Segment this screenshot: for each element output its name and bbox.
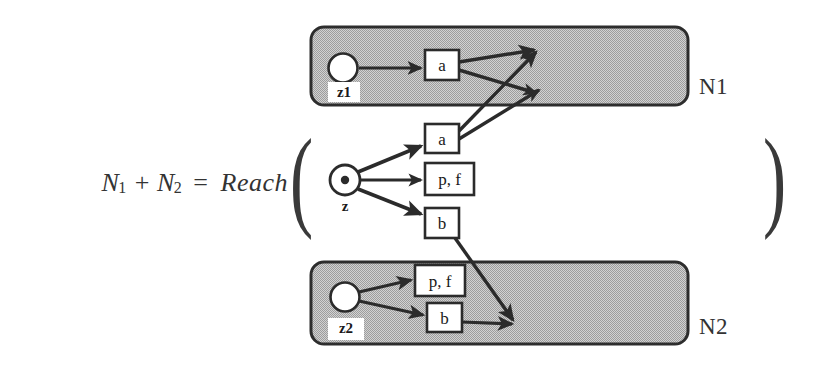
node-label-z1: z1 bbox=[328, 84, 360, 101]
equation: N1 + N2 = Reach bbox=[38, 158, 288, 208]
box-label-n2-b: b bbox=[427, 310, 462, 327]
node-z1-circle bbox=[329, 54, 358, 83]
equation-term-n1-sub: 1 bbox=[118, 179, 127, 197]
equation-term-n1: N bbox=[102, 168, 120, 198]
equation-plus: + bbox=[135, 168, 150, 198]
box-label-n1-a: a bbox=[425, 57, 459, 74]
box-label-n2-pf: p, f bbox=[415, 273, 465, 290]
edge-z-to-a bbox=[358, 146, 421, 172]
paren-open: ( bbox=[290, 122, 313, 234]
region-label-n1: N1 bbox=[699, 74, 728, 100]
paren-close: ) bbox=[763, 122, 786, 234]
edge-z-to-b bbox=[358, 189, 421, 214]
edge-n2-b-to-join bbox=[462, 322, 512, 324]
box-label-root-pf: p, f bbox=[425, 171, 474, 188]
equation-equals: = bbox=[193, 168, 208, 198]
equation-term-n2-sub: 2 bbox=[174, 179, 183, 197]
node-label-z2: z2 bbox=[328, 320, 364, 337]
region-n1-frame bbox=[311, 27, 688, 105]
node-z-dot bbox=[341, 176, 349, 184]
box-label-root-a: a bbox=[425, 131, 459, 148]
node-label-z: z bbox=[329, 198, 361, 215]
figure-canvas: N1 + N2 = Reach ( ) N1 N2 z1 z z2 a a p,… bbox=[0, 0, 821, 365]
region-n1 bbox=[311, 27, 688, 105]
node-z2-circle bbox=[331, 283, 360, 312]
equation-function-name: Reach bbox=[221, 168, 288, 198]
equation-term-n2: N bbox=[157, 168, 175, 198]
region-label-n2: N2 bbox=[699, 314, 728, 340]
box-label-root-b: b bbox=[425, 215, 459, 232]
